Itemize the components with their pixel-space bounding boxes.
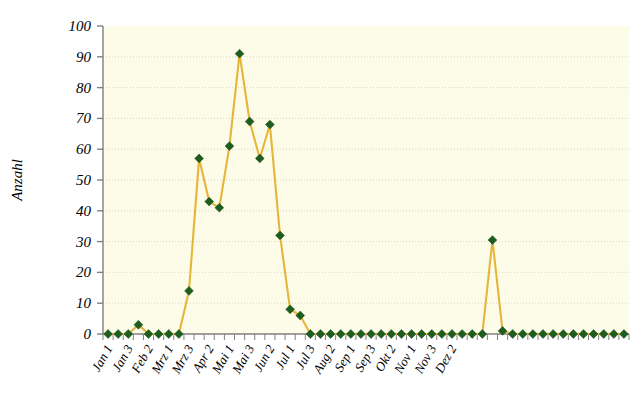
y-tick-label: 40	[76, 203, 92, 219]
y-tick-label: 10	[76, 295, 92, 311]
y-tick-label: 20	[76, 264, 92, 280]
y-tick-label: 90	[76, 49, 92, 65]
y-tick-label: 0	[84, 326, 92, 342]
y-tick-label: 30	[75, 234, 92, 250]
y-axis-title: Anzahl	[9, 159, 25, 202]
y-tick-label: 100	[69, 18, 92, 34]
y-tick-label: 50	[76, 172, 92, 188]
y-tick-label: 70	[76, 110, 92, 126]
y-tick-label: 80	[76, 80, 92, 96]
y-axis-label-group: Anzahl	[9, 159, 25, 202]
chart-container: 0102030405060708090100 Anzahl Jan 1Jan 3…	[0, 0, 634, 419]
y-tick-label: 60	[76, 141, 92, 157]
line-chart: 0102030405060708090100 Anzahl Jan 1Jan 3…	[0, 0, 634, 419]
